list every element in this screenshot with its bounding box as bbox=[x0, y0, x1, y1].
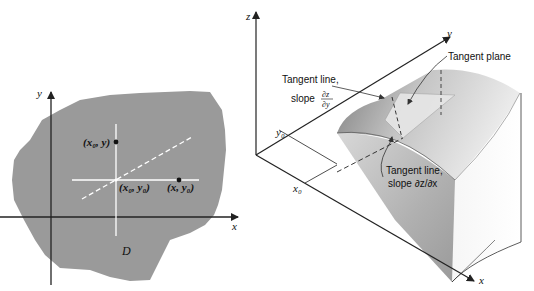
left-y-axis-label: y bbox=[36, 87, 42, 99]
z-axis-label: z bbox=[245, 10, 251, 22]
diagram-canvas: y x (x₀, y) (x₀, y₀) (x, y₀) D bbox=[0, 0, 534, 291]
tangent-line-y-slope-numerator: ∂z bbox=[322, 90, 330, 99]
x0-guide-line bbox=[305, 165, 337, 183]
tangent-line-y-slope-denominator: ∂y bbox=[322, 100, 330, 109]
y0-label: y₀ bbox=[275, 126, 285, 138]
point-x-y0-label: (x, y₀) bbox=[167, 181, 194, 194]
point-x0-y0 bbox=[114, 178, 117, 181]
tangent-line-y-pointer bbox=[332, 86, 384, 98]
tangent-line-x-label-line2: slope ∂z/∂x bbox=[388, 178, 437, 189]
left-figure: y x (x₀, y) (x₀, y₀) (x, y₀) D bbox=[0, 87, 238, 285]
point-x0-y bbox=[114, 140, 119, 145]
tangent-line-y-label-line1: Tangent line, bbox=[282, 74, 339, 85]
x-axis-label: x bbox=[478, 274, 484, 286]
tangent-line-x-label-line1: Tangent line, bbox=[386, 165, 443, 176]
right-figure: z y x y₀ x₀ Tangent plane Tangent line, … bbox=[245, 10, 521, 286]
left-x-axis-label: x bbox=[231, 220, 237, 232]
point-x0-y0-label: (x₀, y₀) bbox=[119, 181, 150, 194]
tangent-plane-label: Tangent plane bbox=[448, 51, 511, 62]
tangent-line-y-label-slope: slope bbox=[291, 93, 315, 104]
y-axis-label: y bbox=[446, 27, 452, 39]
region-d-label: D bbox=[121, 244, 131, 258]
point-x0-y-label: (x₀, y) bbox=[83, 136, 110, 149]
x0-label: x₀ bbox=[292, 182, 302, 194]
